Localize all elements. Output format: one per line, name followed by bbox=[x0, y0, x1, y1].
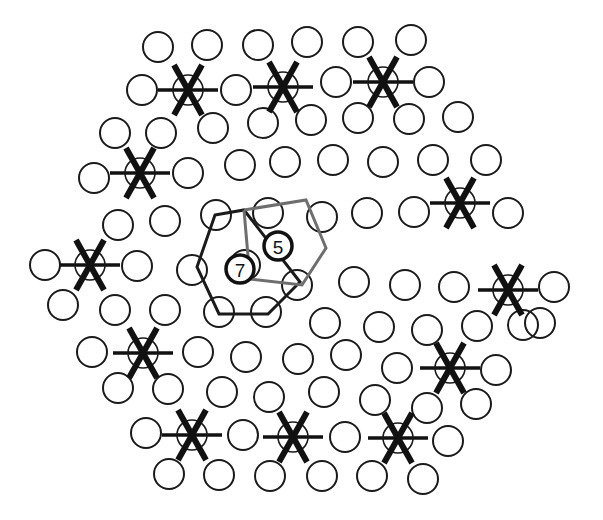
lattice-circle bbox=[343, 27, 373, 57]
lattice-circle bbox=[394, 104, 424, 134]
lattice-circle bbox=[439, 272, 469, 302]
lattice-circle bbox=[183, 337, 213, 367]
lattice-circle bbox=[207, 377, 237, 407]
lattice-circle bbox=[122, 251, 152, 281]
lattice-circle bbox=[150, 206, 180, 236]
lattice-circle bbox=[471, 145, 501, 175]
lattice-circle bbox=[296, 105, 326, 135]
cross-marked-site bbox=[353, 57, 413, 107]
lattice-circle bbox=[48, 290, 78, 320]
lattice-circle bbox=[228, 420, 258, 450]
cross-marked-site bbox=[60, 240, 120, 290]
lattice-circle bbox=[525, 308, 555, 338]
lattice-circle bbox=[443, 102, 473, 132]
lattice-circle bbox=[255, 461, 285, 491]
lattice-circle bbox=[343, 103, 373, 133]
lattice-circle bbox=[331, 340, 361, 370]
lattice-circle bbox=[418, 145, 448, 175]
lattice-circle bbox=[412, 315, 442, 345]
lattice-circle bbox=[231, 342, 261, 372]
site-number: 5 bbox=[273, 237, 284, 258]
lattice-circle bbox=[270, 147, 300, 177]
lattice-circle bbox=[77, 337, 107, 367]
lattice-diagram: 57 bbox=[0, 0, 603, 520]
lattice-circle bbox=[253, 198, 283, 228]
lattice-circle bbox=[412, 393, 442, 423]
lattice-circle bbox=[318, 145, 348, 175]
lattice-circle bbox=[79, 163, 109, 193]
lattice-circle bbox=[204, 460, 234, 490]
lattice-circle bbox=[330, 422, 360, 452]
cross-marked-site bbox=[158, 65, 218, 115]
lattice-circle bbox=[461, 389, 491, 419]
cross-marked-site bbox=[420, 343, 480, 393]
numbered-site-7: 7 bbox=[226, 255, 254, 283]
cross-marked-site bbox=[110, 148, 170, 198]
lattice-circle bbox=[127, 75, 157, 105]
cross-marked-site bbox=[253, 62, 313, 112]
lattice-circle bbox=[192, 30, 222, 60]
lattice-circle bbox=[357, 461, 387, 491]
lattice-circle bbox=[390, 270, 420, 300]
lattice-circle bbox=[103, 210, 133, 240]
lattice-circle bbox=[382, 353, 412, 383]
lattice-canvas: 57 bbox=[0, 0, 603, 520]
lattice-circle bbox=[307, 461, 337, 491]
lattice-circle bbox=[100, 295, 130, 325]
lattice-circle bbox=[368, 147, 398, 177]
lattice-circle bbox=[131, 418, 161, 448]
lattice-circle bbox=[408, 464, 438, 494]
lattice-circle bbox=[173, 158, 203, 188]
lattice-circle bbox=[154, 459, 184, 489]
lattice-circle bbox=[251, 297, 281, 327]
lattice-circle bbox=[143, 32, 173, 62]
cross-marked-site bbox=[478, 265, 538, 315]
lattice-circle bbox=[433, 426, 463, 456]
lattice-circle bbox=[539, 272, 569, 302]
lattice-circle bbox=[399, 197, 429, 227]
lattice-circle bbox=[243, 30, 273, 60]
cross-marked-site bbox=[430, 178, 490, 228]
lattice-circle bbox=[493, 198, 523, 228]
lattice-circle bbox=[292, 27, 322, 57]
lattice-circle bbox=[481, 355, 511, 385]
cross-marked-site bbox=[263, 412, 323, 462]
lattice-circle bbox=[396, 25, 426, 55]
lattice-circle bbox=[309, 377, 339, 407]
lattice-circle bbox=[198, 113, 228, 143]
lattice-circle bbox=[248, 108, 278, 138]
cross-marked-site bbox=[113, 328, 173, 378]
lattice-circle bbox=[254, 382, 284, 412]
cross-marked-site bbox=[162, 410, 222, 460]
lattice-circle bbox=[30, 250, 60, 280]
lattice-circle bbox=[153, 374, 183, 404]
lattice-circle bbox=[310, 308, 340, 338]
numbered-site-5: 5 bbox=[264, 232, 292, 260]
lattice-circle bbox=[321, 67, 351, 97]
lattice-circle bbox=[150, 295, 180, 325]
site-number: 7 bbox=[235, 260, 246, 281]
marked-circles bbox=[60, 57, 538, 463]
lattice-circle bbox=[339, 267, 369, 297]
lattice-circle bbox=[364, 312, 394, 342]
lattice-circle bbox=[225, 150, 255, 180]
lattice-circle bbox=[283, 344, 313, 374]
lattice-circle bbox=[352, 198, 382, 228]
lattice-circle bbox=[414, 67, 444, 97]
lattice-circle bbox=[360, 385, 390, 415]
lattice-circle bbox=[462, 311, 492, 341]
lattice-circle bbox=[100, 118, 130, 148]
lattice-circle bbox=[221, 75, 251, 105]
lattice-circle bbox=[146, 118, 176, 148]
